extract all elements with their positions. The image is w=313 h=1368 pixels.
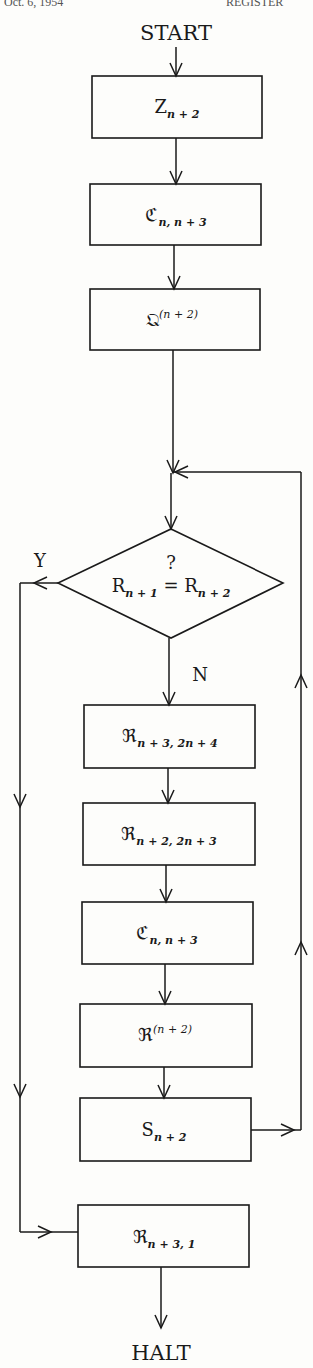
arrow-r3-to-s [158,1067,170,1098]
arrow-start-to-z [170,47,182,76]
decision-node: ? Rn + 1 = Rn + 2 [58,529,283,638]
svg-text:ℭn, n + 3: ℭn, n + 3 [136,922,198,947]
arrow-q-to-join [167,350,179,473]
arrow-c2-to-r3 [159,964,171,1004]
arrow-r4-to-halt [155,1267,167,1328]
header-left-fragment: Oct. 6, 1954 [4,0,63,9]
arrow-join-to-decision [165,473,177,529]
arrow-r1-to-r2 [162,768,174,803]
svg-text:Zn + 2: Zn + 2 [154,96,199,121]
flowchart: Oct. 6, 1954 REGISTER START Zn + 2 ℭn, n… [0,0,313,1368]
node-c-n-n3-second: ℭn, n + 3 [82,902,253,964]
arrow-c1-to-q [168,245,180,289]
loop-return-line [173,466,307,1130]
svg-text:𝔔(n + 2): 𝔔(n + 2) [146,308,198,330]
halt-label: HALT [131,1341,191,1365]
node-c-n-n3: ℭn, n + 3 [90,184,261,245]
start-label: START [140,21,212,45]
node-r-n2-power: ℜ(n + 2) [80,1004,252,1067]
yes-label: Y [33,550,47,571]
svg-text:ℜn + 3, 1: ℜn + 3, 1 [133,1226,196,1251]
node-r-n2-2n3: ℜn + 2, 2n + 3 [83,803,255,865]
node-s-n2: Sn + 2 [80,1098,251,1161]
svg-text:ℜ(n + 2): ℜ(n + 2) [138,1023,192,1045]
node-q-n2: 𝔔(n + 2) [90,289,260,350]
yes-branch-line [14,577,78,1238]
arrow-s-to-loop [251,1124,301,1136]
question-mark: ? [166,552,176,573]
arrow-z-to-c1 [170,138,182,184]
arrow-decision-to-r1 [163,638,175,705]
svg-text:ℜn + 2, 2n + 3: ℜn + 2, 2n + 3 [121,823,217,848]
svg-text:Rn + 1 = Rn + 2: Rn + 1 = Rn + 2 [112,575,231,600]
no-label: N [192,664,208,685]
header-right-fragment: REGISTER [226,0,283,9]
arrow-r2-to-c2 [160,865,172,902]
node-r-n3-1: ℜn + 3, 1 [78,1205,249,1267]
node-r-n3-2n4: ℜn + 3, 2n + 4 [84,705,255,768]
svg-text:ℭn, n + 3: ℭn, n + 3 [145,204,207,229]
svg-text:Sn + 2: Sn + 2 [142,1119,187,1144]
svg-text:ℜn + 3, 2n + 4: ℜn + 3, 2n + 4 [122,725,217,750]
node-z: Zn + 2 [92,76,262,138]
